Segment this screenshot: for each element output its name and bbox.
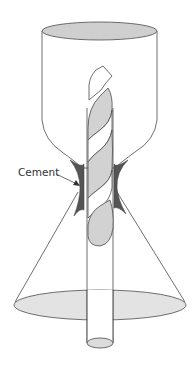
upper-vessel-rim [42, 22, 157, 40]
callout-arrow-line [56, 174, 77, 184]
cement-label: Cement [18, 166, 59, 178]
rod-end [87, 338, 113, 348]
arrow-head-icon [73, 180, 80, 186]
cement-left [70, 160, 84, 216]
diagram-canvas: Cement [0, 0, 195, 372]
cement-callout: Cement [18, 166, 80, 186]
